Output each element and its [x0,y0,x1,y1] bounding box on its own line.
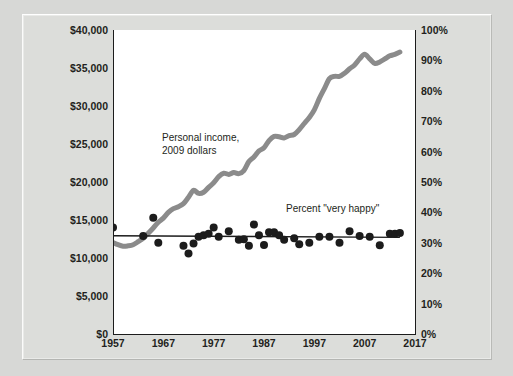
axis-line-bottom [113,334,416,335]
happy-data-point [336,239,344,247]
y-axis-left-tick: $10,000 [20,253,108,263]
happy-data-point [149,214,157,222]
y-axis-right-tick: 30% [421,238,442,248]
y-axis-right-tick: 70% [421,116,442,126]
happy-data-point [225,227,233,235]
plot-svg [113,30,415,334]
happy-data-point [305,239,313,247]
axis-line-left [113,30,114,335]
happy-data-point [366,233,374,241]
happy-data-point [396,229,404,237]
plot-area [113,30,415,334]
y-axis-left-tick: $25,000 [20,139,108,149]
y-axis-right-tick: 20% [421,268,442,278]
annotation-percent-very-happy: Percent "very happy" [286,202,379,215]
y-axis-left-tick: $35,000 [20,63,108,73]
happy-data-point [210,224,218,232]
annotation-personal-income: Personal income, 2009 dollars [162,131,239,157]
y-axis-left-tick: $15,000 [20,215,108,225]
happy-data-point [245,242,253,250]
y-axis-left-tick: $30,000 [20,101,108,111]
chart-figure: $0$5,000$10,000$15,000$20,000$25,000$30,… [0,0,513,376]
happy-data-point [139,232,147,240]
annotation-income-line-1: Personal income, [162,131,239,144]
annotation-income-line-2: 2009 dollars [162,144,239,157]
happy-data-point [185,249,193,257]
y-axis-right-tick: 50% [421,177,442,187]
y-axis-left-tick: $20,000 [20,177,108,187]
happy-data-point [346,227,354,235]
y-axis-right-tick: 60% [421,147,442,157]
happy-data-point [325,233,333,241]
y-axis-right-tick: 90% [421,55,442,65]
y-axis-left-tick: $5,000 [20,291,108,301]
happy-data-point [190,239,198,247]
happy-data-point [255,231,263,239]
y-axis-left-tick: $40,000 [20,25,108,35]
axis-line-right [415,30,416,335]
y-axis-right-tick: 80% [421,86,442,96]
happy-data-point [250,221,258,229]
happy-data-point [154,239,162,247]
y-axis-left-labels: $0$5,000$10,000$15,000$20,000$25,000$30,… [20,0,108,376]
y-axis-right-tick: 10% [421,299,442,309]
happy-data-point [240,235,248,243]
y-axis-right-tick: 40% [421,207,442,217]
happy-data-point [376,241,384,249]
happy-data-point [356,232,364,240]
happy-data-point [315,233,323,241]
y-axis-right-tick: 100% [421,25,448,35]
happy-data-point [215,233,223,241]
x-axis-tick: 2017 [385,338,445,349]
happy-data-point [179,242,187,250]
happy-data-point [280,236,288,244]
happy-data-point [295,240,303,248]
y-axis-right-labels: 0%10%20%30%40%50%60%70%80%90%100% [421,0,491,376]
happy-data-point [260,241,268,249]
